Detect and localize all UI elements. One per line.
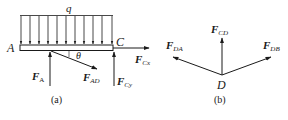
- beam-AC: [20, 45, 113, 51]
- load-label-q: q: [66, 2, 72, 14]
- force-FAD-label: FAD: [82, 71, 100, 85]
- force-FCD-label: FCD: [210, 23, 228, 37]
- force-FDA-arrow: [173, 57, 222, 75]
- caption-a: (a): [51, 94, 62, 106]
- point-C-label: C: [116, 35, 125, 49]
- force-FDA-label: FDA: [165, 39, 183, 53]
- free-body-diagrams: q A C FA θ FAD FCx FCy (a) FCD FDA FDB D…: [0, 0, 288, 120]
- point-A-label: A: [6, 41, 15, 55]
- distributed-load: [20, 16, 113, 45]
- force-FCx-label: FCx: [134, 53, 151, 67]
- force-FDB-label: FDB: [262, 39, 280, 53]
- figure-a: q A C FA θ FAD FCx FCy (a): [6, 2, 151, 106]
- force-FAD-arrow: [51, 51, 97, 69]
- force-FDB-arrow: [222, 57, 271, 75]
- angle-theta-label: θ: [76, 50, 81, 61]
- point-D-label: D: [216, 78, 226, 92]
- figure-b: FCD FDA FDB D (b): [165, 23, 280, 106]
- force-FA-label: FA: [31, 70, 44, 84]
- force-FCy-label: FCy: [116, 75, 133, 89]
- caption-b: (b): [214, 94, 226, 106]
